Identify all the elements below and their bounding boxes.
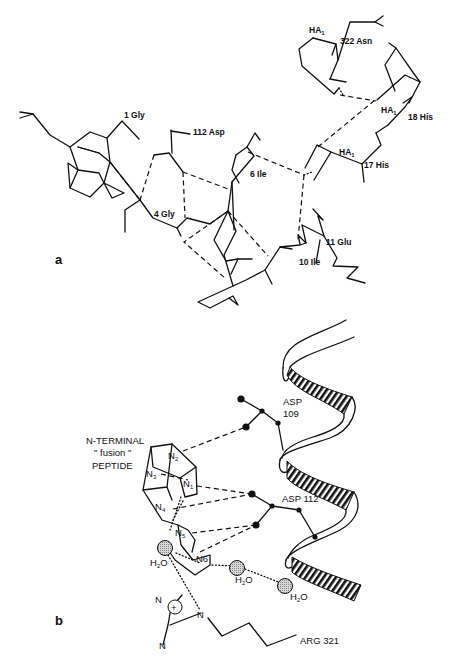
nitrogen-n2: N2 bbox=[168, 450, 179, 462]
nitrogen-n1: N1 bbox=[183, 478, 194, 490]
panel-label-a: a bbox=[55, 252, 63, 267]
residue-label-asn322: 322 Asn bbox=[340, 36, 372, 46]
nitrogen-n6: N6 bbox=[196, 553, 208, 564]
residue-label-ile10: 10 Ile bbox=[299, 257, 321, 267]
arg321-side-chain bbox=[163, 595, 296, 646]
figure-canvas: 1 Gly 112 Asp 4 Gly 6 Ile 10 Ile 11 Glu … bbox=[0, 0, 450, 665]
panel-a-labels: 1 Gly 112 Asp 4 Gly 6 Ile 10 Ile 11 Glu … bbox=[55, 25, 433, 267]
peptide-label-line2: " fusion " bbox=[94, 447, 131, 458]
asp109-label-line1: ASP bbox=[283, 396, 302, 407]
chain-label-ha1-low: HA1 bbox=[339, 147, 355, 158]
panel-a-structure bbox=[20, 16, 420, 308]
asp112-label: ASP 112 bbox=[282, 493, 319, 504]
arg321-label: ARG 321 bbox=[300, 635, 339, 646]
residue-label-his18: 18 His bbox=[408, 112, 433, 122]
residue-label-gly4: 4 Gly bbox=[154, 209, 175, 219]
residue-label-glu11: 11 Glu bbox=[326, 237, 352, 247]
residue-label-gly1: 1 Gly bbox=[124, 110, 145, 120]
asp-side-chains bbox=[237, 395, 317, 539]
guanidinium-n-top: N bbox=[155, 594, 162, 605]
residue-label-asp112: 112 Asp bbox=[193, 127, 225, 137]
chain-label-ha1-mid: HA1 bbox=[381, 105, 397, 116]
fusion-peptide-cage bbox=[143, 427, 293, 610]
nitrogen-n4: N4 bbox=[155, 501, 166, 513]
peptide-label-line1: N-TERMINAL bbox=[86, 435, 144, 446]
water-label-3: H2O bbox=[290, 591, 308, 603]
alpha-helix-ribbon bbox=[279, 320, 361, 601]
water-label-2: H2O bbox=[235, 574, 253, 586]
positive-charge: + bbox=[171, 602, 177, 613]
nitrogen-n3: N3 bbox=[146, 468, 157, 480]
water-label-1: H2O bbox=[150, 557, 168, 569]
panel-b-labels: N-TERMINAL " fusion " PEPTIDE N2 N3 N1 N… bbox=[55, 396, 339, 651]
residue-label-his17: 17 His bbox=[364, 160, 389, 170]
peptide-label-line3: PEPTIDE bbox=[92, 460, 133, 471]
guanidinium-n-bottom: N bbox=[159, 640, 166, 651]
guanidinium-n-chain: N bbox=[197, 609, 204, 620]
chain-label-ha1-top: HA1 bbox=[309, 25, 325, 36]
asp109-label-line2: 109 bbox=[283, 408, 299, 419]
panel-label-b: b bbox=[55, 613, 63, 628]
residue-label-ile6: 6 Ile bbox=[250, 169, 267, 179]
